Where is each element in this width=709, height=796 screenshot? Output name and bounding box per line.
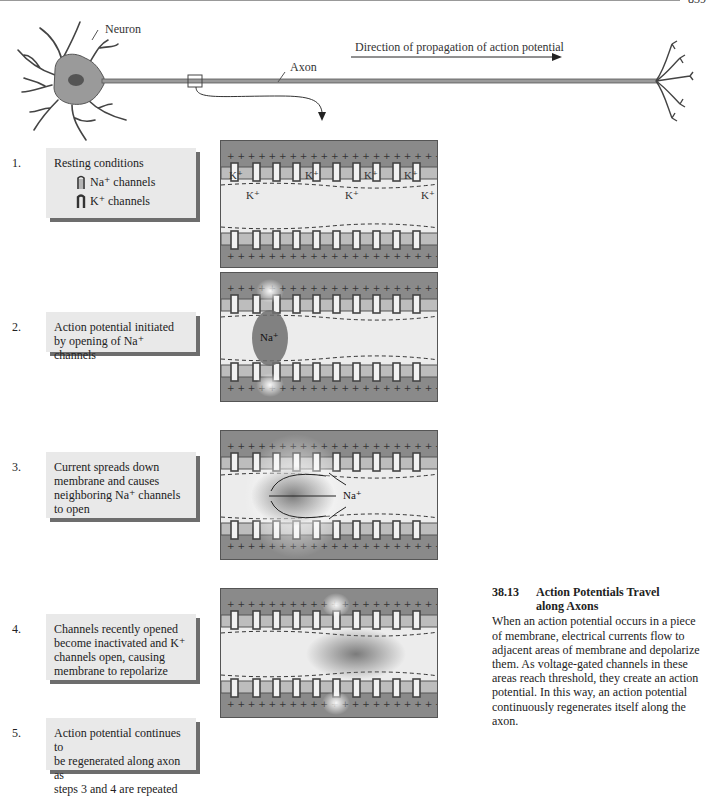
panel-resting: K⁺ K⁺ K⁺ K⁺ K⁺ K⁺ K⁺	[220, 140, 438, 268]
figure-number: 38.13	[492, 585, 536, 613]
panel-repolarize	[220, 588, 438, 718]
step-callout: Resting conditions Na⁺ channels K⁺ chann…	[46, 148, 196, 218]
ion-label: K⁺	[404, 169, 418, 182]
direction-label: Direction of propagation of action poten…	[355, 40, 564, 55]
membrane-illustration	[221, 141, 438, 268]
neuron-leader-line	[92, 30, 98, 40]
step-text-line: steps 3 and 4 are repeated	[54, 782, 188, 796]
step-text-line: by opening of Na⁺ channels	[54, 334, 188, 362]
na-channel-icon	[76, 175, 86, 189]
step-text: Resting conditions	[54, 156, 188, 170]
legend-k: K⁺ channels	[54, 194, 188, 208]
step-callout: Channels recently opened become inactiva…	[46, 614, 196, 680]
step-text-line: be regenerated along axon as	[54, 754, 188, 782]
step-callout: Current spreads down membrane and causes…	[46, 452, 196, 518]
step-text-line: Channels recently opened	[54, 622, 188, 636]
zoom-arrowhead	[318, 112, 326, 121]
step-text-line: membrane and causes	[54, 474, 188, 488]
na-ion-label: Na⁺	[260, 331, 279, 344]
step-text-line: neighboring Na⁺ channels	[54, 488, 188, 502]
step-text-line: Action potential initiated	[54, 320, 188, 334]
caption-title-line: Action Potentials Travel	[536, 585, 660, 599]
step-number: 3.	[12, 460, 34, 474]
neuron-label: Neuron	[105, 22, 141, 37]
panel-spread: Na⁺	[220, 430, 438, 560]
panel-initiation: Na⁺	[220, 272, 438, 402]
ion-label: K⁺	[364, 169, 378, 182]
axon	[102, 79, 658, 83]
caption-title-line: along Axons	[536, 599, 598, 613]
step-number: 4.	[12, 622, 34, 636]
na-ion-label: Na⁺	[343, 489, 362, 502]
step-text-line: channels open, causing	[54, 650, 188, 664]
membrane-illustration	[221, 589, 438, 718]
step-text-line: Current spreads down	[54, 460, 188, 474]
step-text-line: membrane to repolarize	[54, 664, 188, 678]
step-callout: Action potential initiated by opening of…	[46, 312, 196, 352]
k-channel-label: K⁺ channels	[90, 194, 150, 208]
figure-caption: 38.13 Action Potentials Travel along Axo…	[492, 585, 707, 728]
depolarized-region	[306, 628, 406, 680]
legend-na: Na⁺ channels	[54, 175, 188, 189]
axon-label: Axon	[290, 60, 317, 75]
step-text-line: to open	[54, 502, 188, 516]
caption-body: When an action potential occurs in a pie…	[492, 614, 707, 728]
na-channel-label: Na⁺ channels	[90, 175, 155, 189]
step-text-line: become inactivated and K⁺	[54, 636, 188, 650]
membrane-illustration	[221, 431, 438, 560]
ion-label: K⁺	[305, 169, 319, 182]
membrane-illustration	[221, 273, 438, 402]
step-text-line: Action potential continues to	[54, 726, 188, 754]
ion-label: K⁺	[421, 189, 435, 202]
ion-label: K⁺	[229, 169, 243, 182]
step-number: 5.	[12, 726, 34, 740]
caption-title: 38.13 Action Potentials Travel along Axo…	[492, 585, 707, 613]
zoom-arrow	[196, 87, 322, 112]
step-number: 1.	[12, 156, 34, 170]
step-number: 2.	[12, 320, 34, 334]
axon-terminals	[656, 41, 693, 121]
k-channel-icon	[76, 194, 86, 208]
ion-label: K⁺	[246, 189, 260, 202]
ion-label: K⁺	[345, 189, 359, 202]
neuron-nucleus	[68, 74, 84, 86]
step-callout: Action potential continues to be regener…	[46, 718, 196, 770]
